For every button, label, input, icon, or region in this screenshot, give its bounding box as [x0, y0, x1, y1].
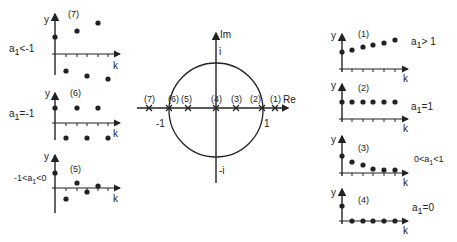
plot-id: (2): [358, 83, 369, 93]
label-i: i: [219, 46, 221, 57]
x-axis-label: k: [403, 177, 409, 188]
complex-plane: Im Re i -i 1 -1 (7) (6) (5) (4) (3) (2) …: [137, 29, 296, 183]
x-axis-label: k: [113, 128, 119, 139]
condition-label: 0<a1<1: [414, 154, 443, 166]
x-axis-label: k: [403, 73, 409, 84]
pole-label-3: (3): [231, 94, 242, 104]
data-points: [339, 153, 397, 172]
plot-id: (1): [358, 29, 369, 39]
label-one: 1: [264, 118, 270, 129]
y-axis-label: y: [331, 187, 336, 198]
condition-label: a1=0: [412, 202, 434, 216]
pole-labels: (7) (6) (5) (4) (3) (2) (1): [144, 94, 281, 104]
label-neg-i: -i: [219, 165, 225, 176]
data-points: [339, 99, 397, 104]
plot-id: (3): [358, 143, 369, 153]
data-points: [52, 170, 100, 201]
y-axis-label: y: [44, 151, 49, 162]
label-neg-one: -1: [156, 118, 165, 129]
re-axis-label: Re: [283, 94, 296, 105]
pole-label-4: (4): [211, 94, 222, 104]
condition-label: a1=-1: [9, 108, 35, 122]
y-axis-label: y: [45, 88, 50, 99]
x-axis-label: k: [403, 123, 409, 134]
plot-1-unstable-growth: y k (1) a1> 1: [331, 29, 436, 84]
y-axis-label: y: [331, 134, 336, 145]
condition-label: a1> 1: [411, 36, 436, 50]
plot-id: (7): [68, 9, 79, 19]
im-axis-label: Im: [220, 29, 231, 40]
plot-id: (5): [70, 164, 81, 174]
y-axis-label: y: [331, 80, 336, 91]
plot-id: (6): [70, 88, 81, 98]
x-axis-label: k: [113, 193, 119, 204]
plot-3-decaying: y k (3) 0<a1<1: [331, 134, 443, 188]
pole-label-6: (6): [168, 94, 179, 104]
condition-label: -1<a1<0: [14, 173, 46, 185]
pole-label-7: (7): [144, 94, 155, 104]
x-axis-label: k: [113, 60, 119, 71]
plot-7-unstable-oscillating: y k (7) a1<-1: [9, 9, 120, 82]
plot-5-damped-oscillating: y k (5) -1<a1<0: [14, 151, 120, 213]
pole-location-diagram: y k (7) a1<-1 y k (6) a1=-1 y: [0, 0, 457, 242]
data-points: [52, 20, 110, 81]
pole-label-2: (2): [250, 94, 261, 104]
plot-4-impulse: y k (4) a1=0: [331, 187, 434, 236]
plot-2-constant: y k (2) a1=1: [331, 80, 433, 134]
pole-label-5: (5): [181, 94, 192, 104]
y-axis-label: y: [44, 14, 49, 25]
plot-id: (4): [358, 195, 369, 205]
data-points: [339, 37, 397, 54]
condition-label: a1=1: [411, 101, 433, 115]
condition-label: a1<-1: [9, 43, 35, 57]
x-axis-label: k: [403, 225, 409, 236]
y-axis-label: y: [331, 30, 336, 41]
plot-6-oscillating: y k (6) a1=-1: [9, 88, 120, 141]
pole-label-1: (1): [270, 94, 281, 104]
